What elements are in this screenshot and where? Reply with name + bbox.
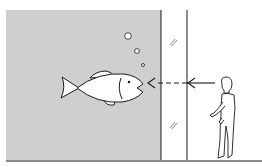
viewer	[210, 77, 235, 158]
viewer-body	[218, 93, 235, 158]
bubble-medium	[135, 49, 140, 54]
bubble-small	[142, 64, 145, 67]
bubble-large	[125, 33, 132, 40]
diagram-canvas	[0, 0, 262, 167]
fish-eye	[128, 81, 131, 84]
glass-reflection-marks	[170, 39, 177, 129]
viewer-head	[222, 77, 233, 93]
